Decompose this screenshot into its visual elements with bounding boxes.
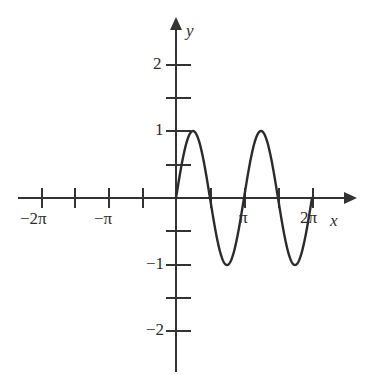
- function-graph-figure: −2π −π π 2π 2 1 −1 −2 x y: [0, 0, 366, 386]
- x-axis-name-label: x: [330, 212, 338, 229]
- y-tick-label-neg-1: −1: [146, 255, 164, 272]
- plot-canvas: [0, 0, 366, 386]
- y-tick-label-2: 2: [153, 55, 162, 72]
- x-tick-label-neg-pi: −π: [94, 210, 112, 227]
- y-axis-name-label: y: [186, 22, 194, 39]
- y-tick-label-1: 1: [155, 121, 164, 138]
- x-tick-label-pi: π: [239, 209, 248, 226]
- y-axis-arrowhead: [170, 17, 182, 30]
- x-axis-arrowhead: [344, 192, 357, 204]
- y-tick-label-neg-2: −2: [146, 321, 164, 338]
- x-tick-label-2pi: 2π: [300, 209, 317, 226]
- x-tick-label-neg-2pi: −2π: [20, 210, 47, 227]
